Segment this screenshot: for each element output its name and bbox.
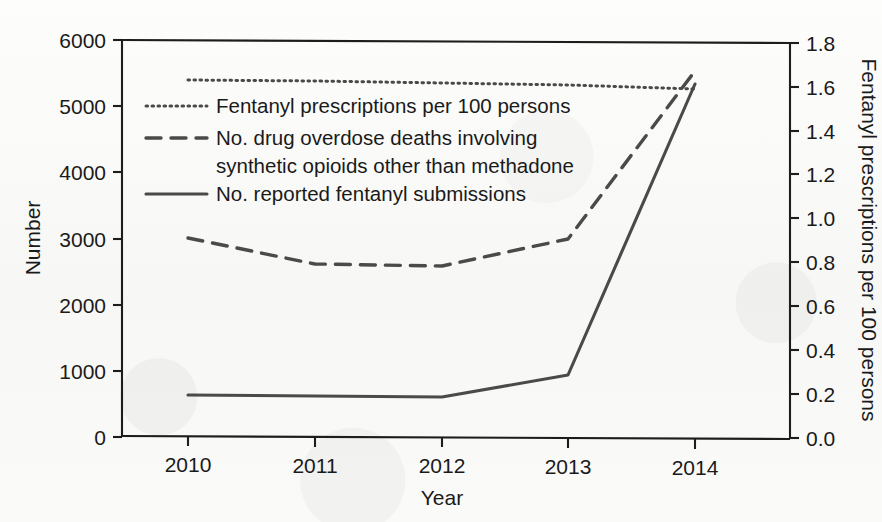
line-chart: 0 1000 2000 3000 4000 5000 6000 0.0 0.2 …	[0, 0, 882, 522]
y-axis-title: Number	[21, 201, 44, 276]
left-axis-ticks: 0 1000 2000 3000 4000 5000 6000	[59, 29, 122, 449]
right-tick-label-1.2: 1.2	[806, 163, 835, 186]
y2-axis-title: Fentanyl prescriptions per 100 persons	[858, 58, 881, 421]
left-tick-label-6000: 6000	[59, 29, 106, 52]
left-tick-label-0: 0	[94, 426, 106, 449]
right-tick-label-0.6: 0.6	[806, 295, 835, 318]
chart-figure: 0 1000 2000 3000 4000 5000 6000 0.0 0.2 …	[0, 0, 882, 522]
top-axis-spine	[122, 40, 790, 43]
left-tick-label-5000: 5000	[59, 95, 106, 118]
left-tick-label-3000: 3000	[59, 228, 106, 251]
legend-label-overdose-deaths-line1: No. drug overdose deaths involving	[216, 126, 537, 149]
x-tick-label-2013: 2013	[545, 455, 592, 478]
right-axis-ticks: 0.0 0.2 0.4 0.6 0.8 1.0 1.2 1.4 1.6 1.8	[790, 32, 836, 450]
right-tick-label-0.8: 0.8	[806, 251, 835, 274]
right-tick-label-0.4: 0.4	[806, 339, 836, 362]
left-tick-label-2000: 2000	[59, 294, 106, 317]
legend: Fentanyl prescriptions per 100 persons N…	[146, 94, 574, 205]
left-tick-label-4000: 4000	[59, 161, 106, 184]
x-tick-label-2014: 2014	[672, 456, 719, 479]
right-tick-label-1.6: 1.6	[806, 76, 835, 99]
legend-label-fentanyl-prescriptions: Fentanyl prescriptions per 100 persons	[216, 94, 570, 117]
right-tick-label-1.0: 1.0	[806, 207, 835, 230]
left-tick-label-1000: 1000	[59, 360, 106, 383]
right-tick-label-1.8: 1.8	[806, 32, 835, 55]
x-tick-label-2011: 2011	[292, 454, 337, 477]
x-axis-ticks: 2010 2011 2012 2013 2014	[165, 436, 719, 479]
legend-label-fentanyl-submissions: No. reported fentanyl submissions	[216, 182, 526, 205]
legend-label-overdose-deaths-line2: synthetic opioids other than methadone	[216, 154, 574, 177]
bottom-axis-spine	[122, 436, 790, 439]
right-tick-label-1.4: 1.4	[806, 120, 836, 143]
series-fentanyl-prescriptions	[188, 80, 695, 89]
x-tick-label-2012: 2012	[419, 454, 466, 477]
right-tick-label-0.0: 0.0	[806, 427, 835, 450]
x-axis-title: Year	[421, 486, 463, 509]
right-tick-label-0.2: 0.2	[806, 383, 835, 406]
x-tick-label-2010: 2010	[165, 453, 212, 476]
